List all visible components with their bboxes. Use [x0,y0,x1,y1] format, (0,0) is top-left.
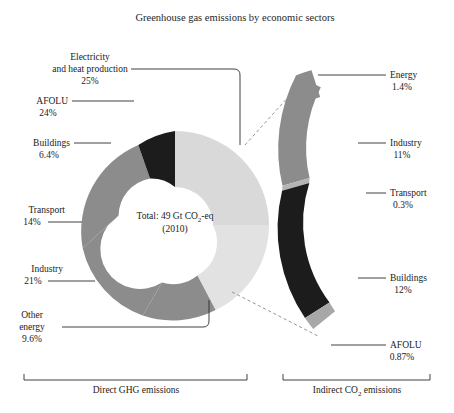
bracket-indirect-pre: Indirect CO [313,385,358,395]
label-r-industry-pct: 11% [393,150,410,160]
center-year: (2010) [162,224,187,235]
label-industry-pct: 21% [24,276,42,286]
center-total-post: -eq [201,211,213,221]
label-electricity-line1: Electricity [70,52,110,62]
page-title: Greenhouse gas emissions by economic sec… [135,12,334,23]
bracket-direct [24,374,247,380]
label-r-buildings-pct: 12% [394,285,412,295]
label-r-afolu-pct: 0.87% [390,352,415,362]
label-other-pct: 9.6% [22,334,42,344]
center-total-pre: Total: 49 Gt CO [137,211,198,221]
label-transport-name: Transport [28,205,65,215]
label-r-industry-name: Industry [390,138,422,148]
bracket-indirect [283,374,430,380]
label-r-energy-name: Energy [390,70,418,80]
label-transport-pct: 14% [23,217,41,227]
label-other-line1: Other [21,310,43,320]
label-r-transport-name: Transport [390,188,427,198]
label-electricity-pct: 25% [81,76,99,86]
label-r-buildings-name: Buildings [390,273,427,283]
indirect-emissions-arc [278,70,336,329]
label-r-energy-pct: 1.4% [392,82,412,92]
label-r-transport-pct: 0.3% [393,200,413,210]
bracket-label-direct: Direct GHG emissions [93,385,180,395]
label-industry-name: Industry [31,264,63,274]
label-other-line2: energy [19,322,45,332]
label-afolu-name: AFOLU [36,96,68,106]
donut-segment-afolu [81,145,150,248]
label-buildings-name: Buildings [33,138,70,148]
label-electricity-line2: and heat production [52,64,128,74]
center-total: Total: 49 Gt CO2-eq [137,211,214,224]
bracket-indirect-post: emissions [361,385,401,395]
arc-segment-buildings [278,183,330,318]
label-r-afolu-name: AFOLU [390,340,422,350]
label-buildings-pct: 6.4% [39,150,59,160]
label-afolu-pct: 24% [39,108,57,118]
bracket-label-indirect: Indirect CO2 emissions [313,385,402,398]
ghg-emissions-chart: Greenhouse gas emissions by economic sec… [0,0,454,413]
